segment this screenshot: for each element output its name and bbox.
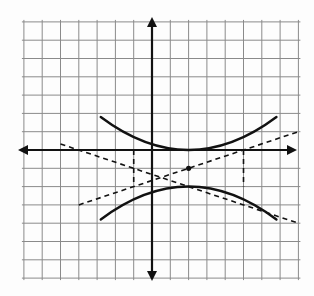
center-marker bbox=[186, 166, 191, 171]
hyperbola-diagram bbox=[0, 0, 314, 296]
x-axis-right-arrow-icon bbox=[287, 145, 297, 155]
coordinate-plane bbox=[0, 0, 314, 296]
y-axis-down-arrow-icon bbox=[147, 271, 157, 281]
x-axis-left-arrow-icon bbox=[18, 145, 28, 155]
center-point-icon bbox=[186, 166, 191, 171]
